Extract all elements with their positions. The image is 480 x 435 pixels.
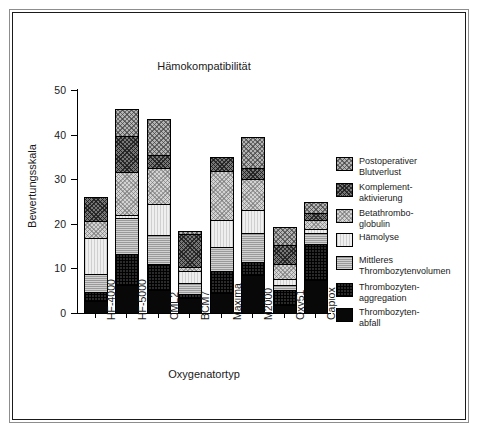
bar-segment[interactable] [211,158,233,171]
y-axis-tick [71,224,77,225]
bar-segment[interactable] [116,137,138,173]
y-axis-tick-label: 50 [36,85,66,95]
bar-segment[interactable] [242,211,264,234]
legend-swatch [336,157,353,171]
bar-segment[interactable] [274,246,296,265]
legend-item[interactable]: Postoperativer Blutverlust [336,156,417,177]
legend-item[interactable]: Hämolyse [336,232,399,247]
bar-segment[interactable] [116,110,138,137]
y-axis-tick-label: 0 [36,308,66,318]
x-axis-category-label: HF-4000 [100,279,122,320]
bar-segment[interactable] [242,138,264,168]
y-axis-tick [71,268,77,269]
y-axis-tick-label: 10 [36,263,66,273]
bar-segment[interactable] [148,169,170,205]
bar-segment[interactable] [85,239,107,275]
y-axis-tick [71,90,77,91]
x-axis-category-label: Maxima [226,283,248,320]
x-axis-category-label: CML2 [163,292,185,320]
bar-segment[interactable] [305,245,327,281]
x-axis-category-label: BCM7 [194,291,216,320]
bar-segment[interactable] [85,222,107,240]
bar-segment[interactable] [211,248,233,272]
bar-segment[interactable] [148,120,170,157]
x-axis-category-label: M2000 [257,288,279,320]
y-axis-tick-label: 30 [36,174,66,184]
legend-swatch [336,233,353,247]
legend-label: Mittleres Thrombozytenvolumen [359,255,451,276]
y-axis-tick-label: 40 [36,130,66,140]
bar-segment[interactable] [211,172,233,221]
legend-swatch [336,209,353,223]
chart-title: Hämokompatibilität [78,60,330,72]
y-axis-tick [71,135,77,136]
bar-segment[interactable] [148,236,170,265]
x-axis-tick [158,313,159,318]
legend-label: Betathrombo- globulin [359,208,414,229]
bar-segment[interactable] [305,221,327,230]
x-axis-tick [95,313,96,318]
bar-segment[interactable] [305,234,327,245]
bar-segment[interactable] [179,235,201,268]
bar-segment[interactable] [274,265,296,281]
bar-segment[interactable] [148,156,170,168]
x-axis-category-label: HF-5000 [131,279,153,320]
x-axis-title: Oxygenatortyp [78,368,330,380]
x-axis-tick [189,313,190,318]
x-axis-tick [221,313,222,318]
legend-item[interactable]: Thrombozyten- abfall [336,307,420,328]
bar-segment[interactable] [148,205,170,236]
x-axis-category-label: Capiox [320,287,342,320]
bar-segment[interactable] [305,203,327,214]
legend-item[interactable]: Mittleres Thrombozytenvolumen [336,255,451,276]
bar-segment[interactable] [305,214,327,221]
legend-label: Thrombozyten- aggregation [359,282,420,303]
y-axis-title: Bewertungsskala [26,126,38,246]
bar-segment[interactable] [242,180,264,211]
legend-label: Hämolyse [359,232,399,243]
x-axis-tick [126,313,127,318]
y-axis-tick [71,179,77,180]
y-axis-ticks: 01020304050 [0,0,78,435]
legend-item[interactable]: Thrombozyten- aggregation [336,282,420,303]
x-axis-tick [284,313,285,318]
x-axis-tick [315,313,316,318]
bar-segment[interactable] [274,228,296,246]
bar-segment[interactable] [179,272,201,284]
bar-segment[interactable] [85,198,107,222]
legend-label: Komplement- aktivierung [359,182,413,203]
bar-segment[interactable] [116,173,138,217]
legend-label: Postoperativer Blutverlust [359,156,417,177]
bar-segment[interactable] [242,263,264,276]
y-axis-tick [71,313,77,314]
bar-segment[interactable] [242,234,264,263]
figure-canvas: Hämokompatibilität 01020304050 Bewertung… [0,0,480,435]
legend-item[interactable]: Komplement- aktivierung [336,182,413,203]
legend-swatch [336,183,353,197]
bar-segment[interactable] [211,221,233,249]
legend-swatch [336,256,353,270]
y-axis-tick-label: 20 [36,219,66,229]
x-axis-category-label: Oxy51 [289,290,311,320]
legend-item[interactable]: Betathrombo- globulin [336,208,414,229]
bar-segment[interactable] [116,219,138,255]
legend-label: Thrombozyten- abfall [359,307,420,328]
bar-segment[interactable] [242,169,264,180]
x-axis-tick [252,313,253,318]
